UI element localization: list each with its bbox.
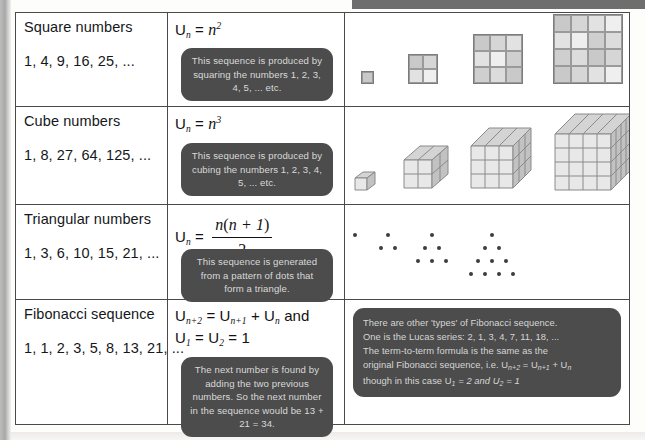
visual-cell-squares (345, 13, 629, 106)
note-line-3: The term-to-term formula is the same as … (363, 345, 548, 356)
note-line-1: There are other 'types' of Fibonacci seq… (363, 317, 558, 328)
formula-cell: Un = n(n + 1) 2 This sequence is generat… (168, 205, 345, 299)
square-cell (423, 55, 437, 69)
square-cell (571, 15, 588, 32)
square-diagram-1 (361, 71, 374, 84)
sequence-name-cell: Square numbers 1, 4, 9, 16, 25, ... (16, 13, 168, 106)
cube-diagram-2 (400, 138, 460, 194)
square-cell (409, 55, 423, 69)
cube-diagram-1 (351, 166, 381, 194)
square-cell (605, 15, 622, 32)
formula-square: Un = n2 (175, 19, 344, 42)
square-diagram-3 (473, 34, 523, 84)
sequence-title: Square numbers (24, 20, 167, 36)
square-cell (506, 35, 522, 51)
callout-note: The next number is found by adding the t… (181, 357, 333, 437)
sequence-title: Fibonacci sequence (24, 307, 167, 323)
sequence-name-cell: Cube numbers 1, 8, 27, 64, 125, ... (16, 107, 168, 204)
square-cell (506, 51, 522, 67)
scan-top-bar-artifact (352, 0, 645, 9)
table-row: Fibonacci sequence 1, 1, 2, 3, 5, 8, 13,… (16, 300, 629, 424)
formula-fibonacci: Un+2 = Un+1 + Un and U1 = U2 = 1 (175, 306, 344, 350)
square-diagram-2 (408, 54, 438, 84)
lucas-series-note: There are other 'types' of Fibonacci seq… (353, 308, 621, 397)
square-cell (474, 35, 490, 51)
sequence-terms: 1, 8, 27, 64, 125, ... (24, 147, 167, 163)
sequence-name-cell: Triangular numbers 1, 3, 6, 10, 15, 21, … (16, 205, 168, 299)
square-cell (605, 32, 622, 49)
callout-note: This sequence is produced by cubing the … (181, 143, 333, 196)
note-line-2: One is the Lucas series: 2, 1, 3, 4, 7, … (363, 331, 559, 342)
table-row: Cube numbers 1, 8, 27, 64, 125, ... Un =… (16, 107, 629, 205)
formula-cell: Un = n3 This sequence is produced by cub… (168, 107, 345, 204)
note-line-5: though in this case U1 = 2 and U2 = 1 (363, 375, 520, 386)
formula-cube: Un = n3 (175, 113, 344, 136)
square-cell (571, 49, 588, 66)
square-cell (588, 32, 605, 49)
scan-left-edge-artifact (0, 0, 11, 440)
sequence-terms: 1, 4, 9, 16, 25, ... (24, 53, 167, 69)
sequence-title: Cube numbers (24, 114, 167, 130)
square-cell (605, 66, 622, 83)
square-cell (423, 69, 437, 83)
table-row: Square numbers 1, 4, 9, 16, 25, ... Un =… (16, 13, 629, 107)
square-cell (490, 51, 506, 67)
square-diagram-4 (553, 14, 623, 84)
square-cell (474, 67, 490, 83)
square-cell (605, 49, 622, 66)
callout-note: This sequence is produced by squaring th… (181, 48, 333, 101)
square-cell (554, 15, 571, 32)
note-line-4: original Fibonacci sequence, i.e. Un+2 =… (363, 359, 571, 370)
square-cell (490, 35, 506, 51)
square-cell (571, 32, 588, 49)
sequence-terms: 1, 3, 6, 10, 15, 21, ... (24, 245, 167, 261)
square-cell (554, 49, 571, 66)
visual-cell-cubes (345, 107, 629, 204)
cube-diagram-4 (552, 107, 629, 194)
square-cell (571, 66, 588, 83)
square-cell (588, 15, 605, 32)
square-cell (362, 72, 373, 83)
sequence-terms: 1, 1, 2, 3, 5, 8, 13, 21, ... (24, 340, 167, 356)
square-cell (490, 67, 506, 83)
square-cell (588, 49, 605, 66)
square-cell (588, 66, 605, 83)
callout-note: This sequence is generated from a patter… (181, 249, 333, 302)
square-cell (474, 51, 490, 67)
square-cell (506, 67, 522, 83)
square-cell (554, 66, 571, 83)
formula-cell: Un = n2 This sequence is produced by squ… (168, 13, 345, 106)
sequence-title: Triangular numbers (24, 212, 167, 228)
table-row: Triangular numbers 1, 3, 6, 10, 15, 21, … (16, 205, 629, 300)
cube-diagram-3 (468, 118, 550, 194)
formula-cell: Un+2 = Un+1 + Un and U1 = U2 = 1 The nex… (168, 300, 345, 424)
square-cell (409, 69, 423, 83)
visual-cell-fibonacci-note: There are other 'types' of Fibonacci seq… (345, 300, 629, 424)
square-cell (554, 32, 571, 49)
sequence-name-cell: Fibonacci sequence 1, 1, 2, 3, 5, 8, 13,… (16, 300, 168, 424)
visual-cell-dot-triangles (345, 205, 629, 299)
sequences-table: Square numbers 1, 4, 9, 16, 25, ... Un =… (15, 12, 630, 425)
